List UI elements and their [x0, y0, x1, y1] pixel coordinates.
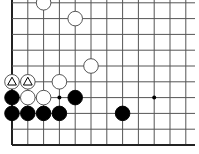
- black-stone-disc: [68, 90, 83, 105]
- white-stone: [68, 11, 83, 26]
- star-point: [152, 96, 156, 100]
- board-grid: [12, 0, 195, 145]
- white-stone-disc: [21, 90, 36, 105]
- black-stone: [21, 106, 36, 121]
- black-stone: [52, 106, 67, 121]
- black-stone-disc: [115, 106, 130, 121]
- star-point: [57, 96, 61, 100]
- black-stone-disc: [5, 90, 20, 105]
- white-stone: [21, 90, 36, 105]
- white-stone: [5, 75, 20, 90]
- black-stone: [36, 106, 51, 121]
- black-stone: [5, 106, 20, 121]
- white-stone-disc: [84, 59, 99, 74]
- black-stone-disc: [5, 106, 20, 121]
- black-stone: [68, 90, 83, 105]
- black-stone-disc: [36, 106, 51, 121]
- black-stone-disc: [52, 106, 67, 121]
- white-stone: [36, 0, 51, 10]
- white-stone-disc: [68, 11, 83, 26]
- white-stone: [36, 90, 51, 105]
- white-stone-disc: [36, 90, 51, 105]
- white-stone-disc: [36, 0, 51, 10]
- black-stone-disc: [21, 106, 36, 121]
- black-stone: [5, 90, 20, 105]
- white-stone: [21, 75, 36, 90]
- white-stone: [84, 59, 99, 74]
- go-board: [0, 0, 199, 154]
- black-stone: [115, 106, 130, 121]
- white-stone: [52, 75, 67, 90]
- white-stone-disc: [52, 75, 67, 90]
